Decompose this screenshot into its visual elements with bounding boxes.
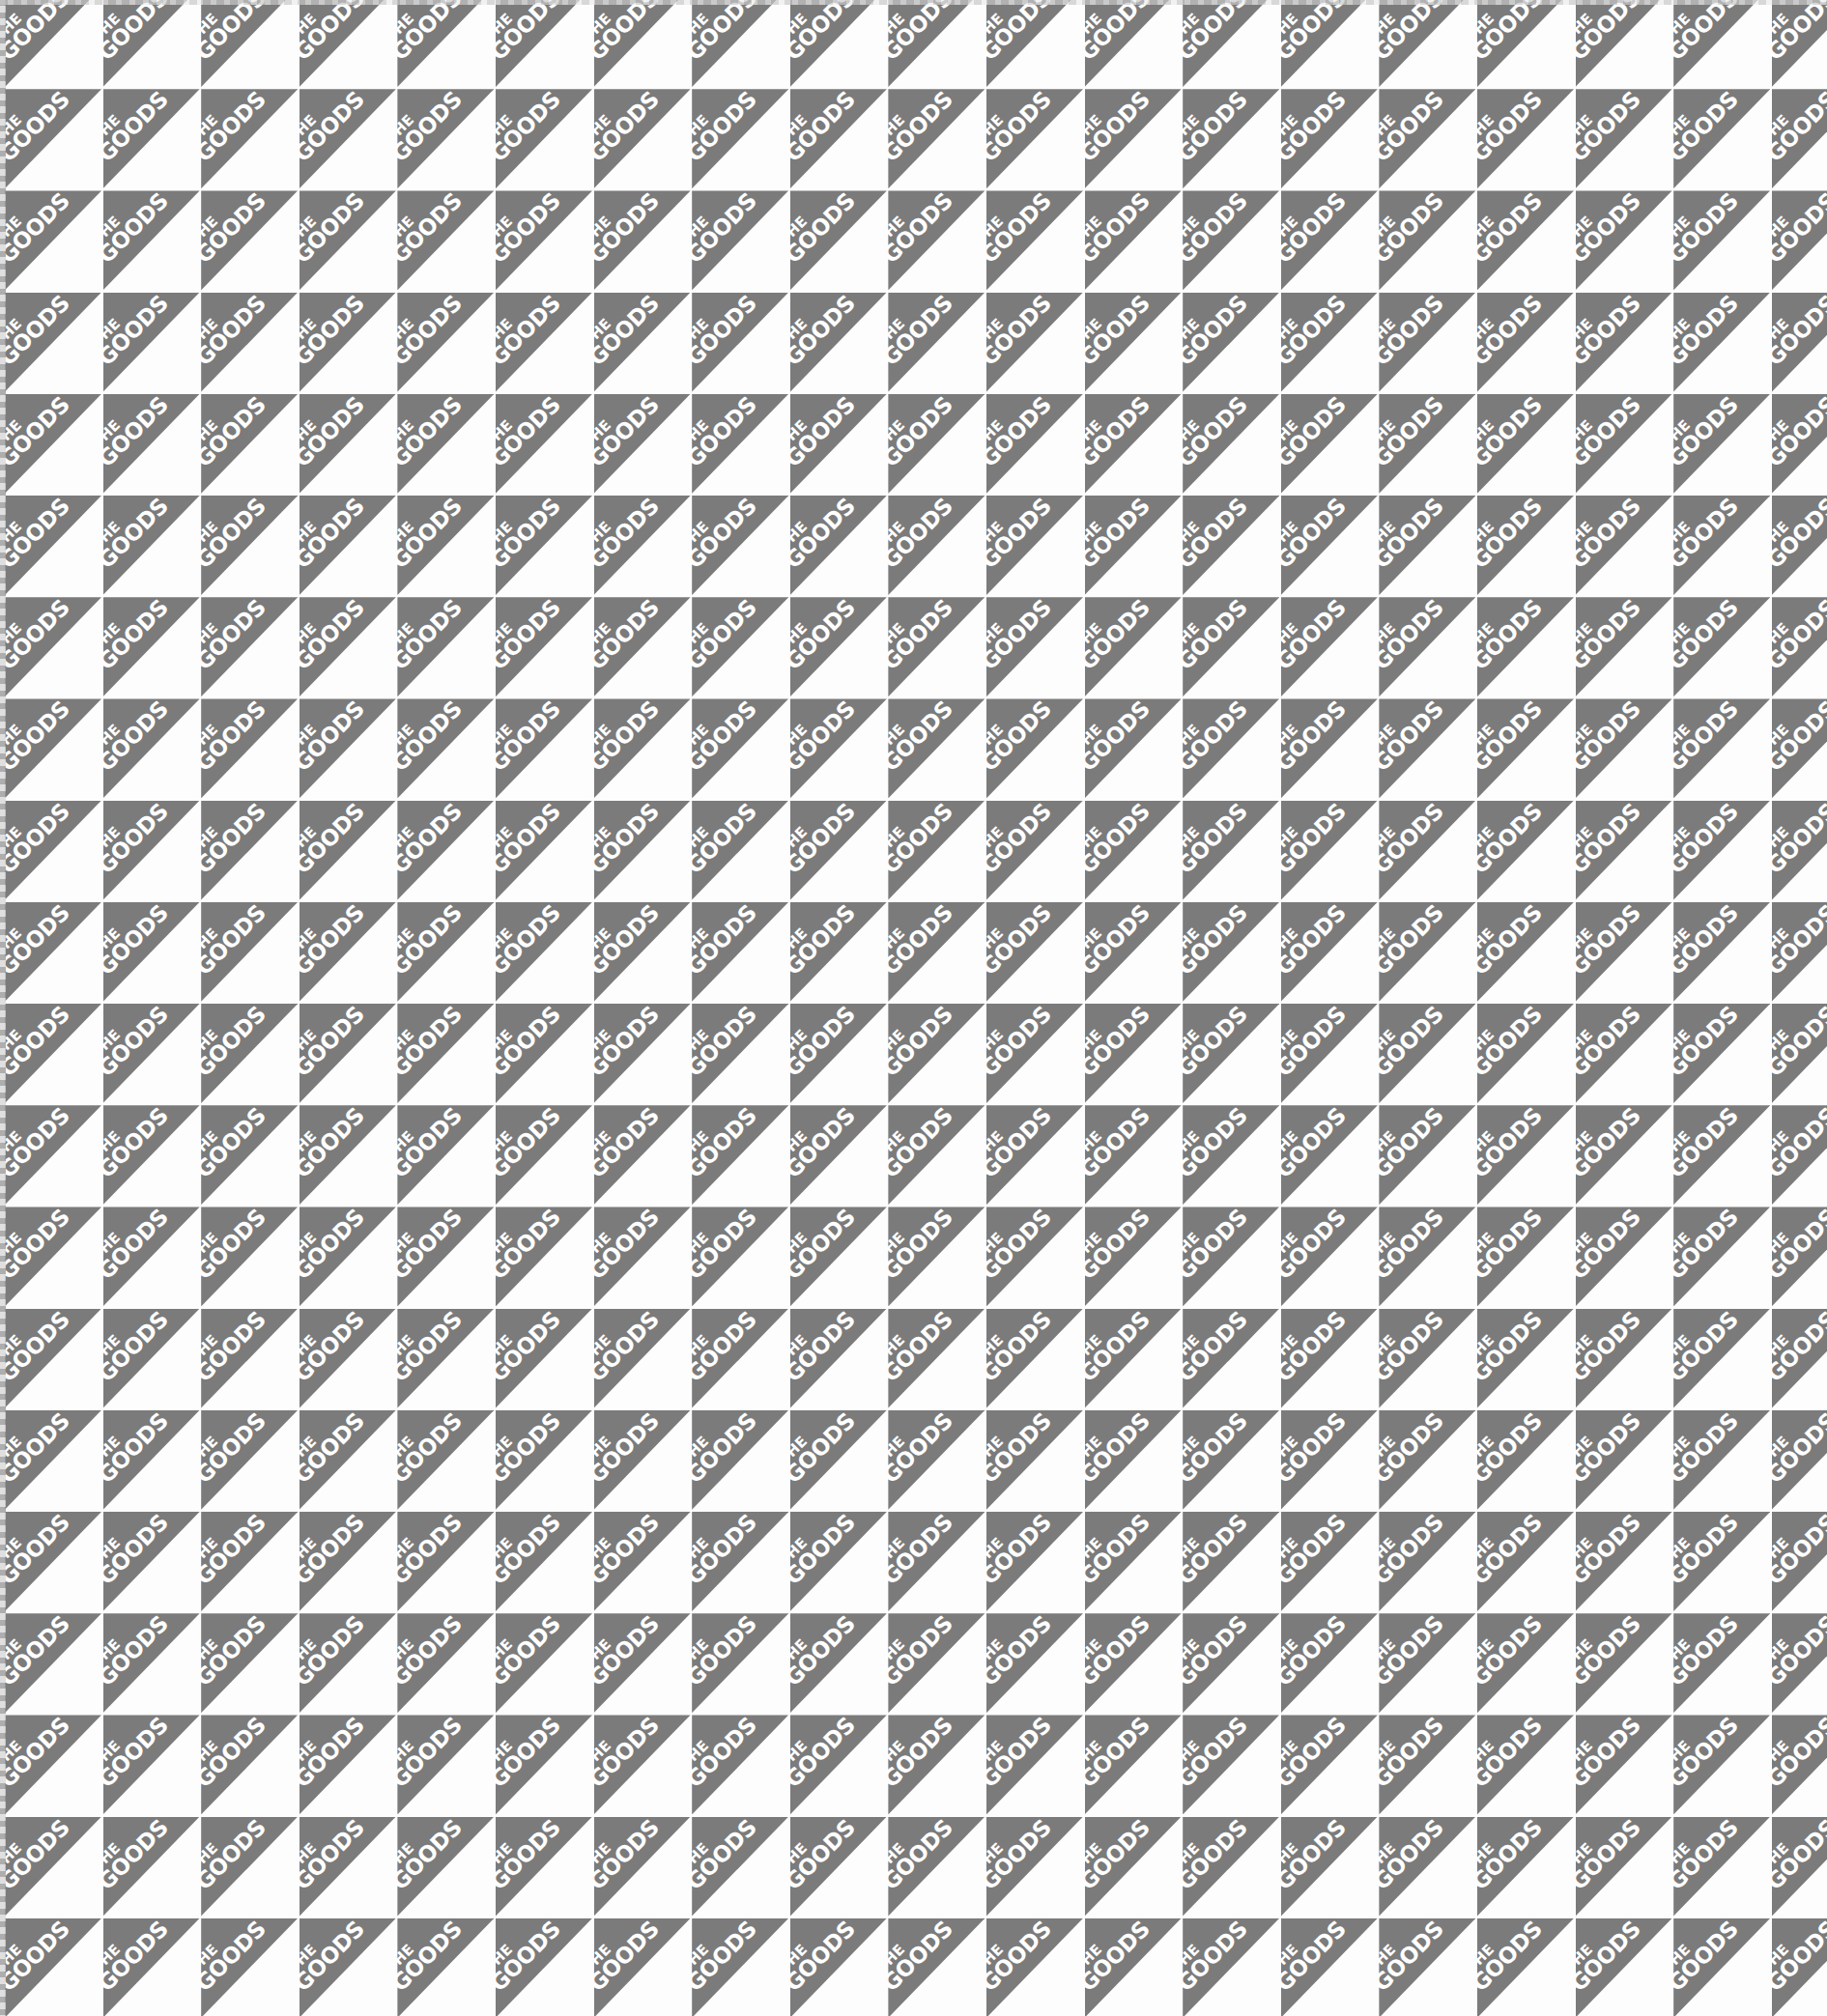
pattern-tile: THE GOODS (397, 801, 494, 900)
pattern-tile: THE GOODS (888, 698, 985, 798)
pattern-tile: THE GOODS (888, 1105, 985, 1205)
pattern-tile: THE GOODS (300, 1817, 396, 1917)
pattern-tile: THE GOODS (5, 698, 101, 798)
pattern-tile: THE GOODS (692, 902, 788, 1002)
pattern-tile: THE GOODS (986, 1817, 1083, 1917)
pattern-tile: THE GOODS (888, 902, 985, 1002)
pattern-tile: THE GOODS (201, 1105, 298, 1205)
pattern-tile: THE GOODS (1673, 190, 1770, 290)
pattern-tile: THE GOODS (1281, 0, 1378, 87)
pattern-tile: THE GOODS (1281, 89, 1378, 188)
torn-top-edge (0, 0, 1827, 5)
pattern-tile: THE GOODS (1183, 801, 1279, 900)
pattern-tile: THE GOODS (496, 496, 592, 595)
pattern-tile: THE GOODS (103, 698, 200, 798)
pattern-tile: THE GOODS (1379, 1410, 1475, 1510)
pattern-tile: THE GOODS (790, 1715, 887, 1814)
pattern-tile: THE GOODS (1576, 1207, 1672, 1306)
pattern-tile: THE GOODS (103, 1715, 200, 1814)
pattern-tile: THE GOODS (594, 1817, 691, 1917)
pattern-tile: THE GOODS (201, 1715, 298, 1814)
pattern-tile: THE GOODS (1379, 1004, 1475, 1103)
pattern-tile: THE GOODS (594, 801, 691, 900)
pattern-tile: THE GOODS (397, 1715, 494, 1814)
pattern-tile: THE GOODS (1281, 1004, 1378, 1103)
pattern-tile: THE GOODS (300, 1105, 396, 1205)
pattern-tile: THE GOODS (1576, 1410, 1672, 1510)
pattern-tile: THE GOODS (594, 89, 691, 188)
pattern-tile: THE GOODS (986, 698, 1083, 798)
pattern-tile: THE GOODS (201, 1613, 298, 1713)
pattern-tile: THE GOODS (103, 902, 200, 1002)
pattern-tile: THE GOODS (1576, 597, 1672, 696)
pattern-tile: THE GOODS (1085, 1309, 1182, 1408)
pattern-tile: THE GOODS (1281, 1309, 1378, 1408)
pattern-tile: THE GOODS (1085, 496, 1182, 595)
pattern-tile: THE GOODS (1379, 0, 1475, 87)
pattern-tile: THE GOODS (594, 1105, 691, 1205)
pattern-tile: THE GOODS (1772, 1613, 1827, 1713)
pattern-tile: THE GOODS (790, 1512, 887, 1611)
pattern-tile: THE GOODS (1379, 902, 1475, 1002)
pattern-tile: THE GOODS (1772, 1309, 1827, 1408)
pattern-tile: THE GOODS (692, 1817, 788, 1917)
pattern-tile: THE GOODS (300, 597, 396, 696)
pattern-tile: THE GOODS (986, 1918, 1083, 2016)
pattern-tile: THE GOODS (201, 0, 298, 87)
pattern-tile: THE GOODS (1772, 1817, 1827, 1917)
pattern-tile: THE GOODS (1772, 1207, 1827, 1306)
pattern-tile: THE GOODS (397, 0, 494, 87)
pattern-tile: THE GOODS (5, 1309, 101, 1408)
pattern-tile: THE GOODS (300, 698, 396, 798)
pattern-tile: THE GOODS (103, 1105, 200, 1205)
pattern-tile: THE GOODS (397, 1105, 494, 1205)
pattern-tile: THE GOODS (692, 1715, 788, 1814)
pattern-tile: THE GOODS (300, 190, 396, 290)
pattern-tile: THE GOODS (1673, 1512, 1770, 1611)
pattern-tile: THE GOODS (397, 394, 494, 494)
pattern-tile: THE GOODS (1085, 0, 1182, 87)
pattern-tile: THE GOODS (397, 293, 494, 392)
pattern-tile: THE GOODS (201, 1918, 298, 2016)
pattern-tile: THE GOODS (1576, 1004, 1672, 1103)
pattern-tile: THE GOODS (1673, 0, 1770, 87)
pattern-tile: THE GOODS (790, 1105, 887, 1205)
pattern-tile: THE GOODS (1085, 698, 1182, 798)
pattern-tile: THE GOODS (5, 597, 101, 696)
pattern-tile: THE GOODS (5, 394, 101, 494)
goods-pattern-grid: THE GOODS THE GOODS THE GOODS THE GOODS (0, 0, 1827, 2016)
pattern-tile: THE GOODS (1183, 1410, 1279, 1510)
pattern-tile: THE GOODS (201, 1817, 298, 1917)
pattern-tile: THE GOODS (1183, 1309, 1279, 1408)
pattern-tile: THE GOODS (201, 1410, 298, 1510)
pattern-tile: THE GOODS (1379, 1105, 1475, 1205)
pattern-tile: THE GOODS (888, 1004, 985, 1103)
the-goods-logo: THE GOODS (1379, 0, 1447, 64)
pattern-tile: THE GOODS (1281, 1613, 1378, 1713)
pattern-tile: THE GOODS (1085, 597, 1182, 696)
pattern-tile: THE GOODS (1085, 1207, 1182, 1306)
pattern-tile: THE GOODS (496, 1309, 592, 1408)
pattern-tile: THE GOODS (790, 89, 887, 188)
pattern-tile: THE GOODS (5, 1613, 101, 1713)
pattern-tile: THE GOODS (1772, 1410, 1827, 1510)
pattern-tile: THE GOODS (496, 902, 592, 1002)
pattern-tile: THE GOODS (1673, 496, 1770, 595)
pattern-tile: THE GOODS (790, 698, 887, 798)
pattern-tile: THE GOODS (790, 597, 887, 696)
pattern-tile: THE GOODS (1673, 1410, 1770, 1510)
pattern-tile: THE GOODS (888, 801, 985, 900)
pattern-tile: THE GOODS (986, 394, 1083, 494)
pattern-tile: THE GOODS (888, 394, 985, 494)
pattern-tile: THE GOODS (201, 394, 298, 494)
pattern-tile: THE GOODS (1576, 0, 1672, 87)
pattern-tile: THE GOODS (986, 496, 1083, 595)
pattern-tile: THE GOODS (986, 597, 1083, 696)
pattern-tile: THE GOODS (300, 89, 396, 188)
pattern-tile: THE GOODS (986, 902, 1083, 1002)
pattern-tile: THE GOODS (1379, 496, 1475, 595)
pattern-tile: THE GOODS (397, 496, 494, 595)
pattern-tile: THE GOODS (201, 293, 298, 392)
pattern-tile: THE GOODS (1183, 902, 1279, 1002)
pattern-tile: THE GOODS (1183, 496, 1279, 595)
